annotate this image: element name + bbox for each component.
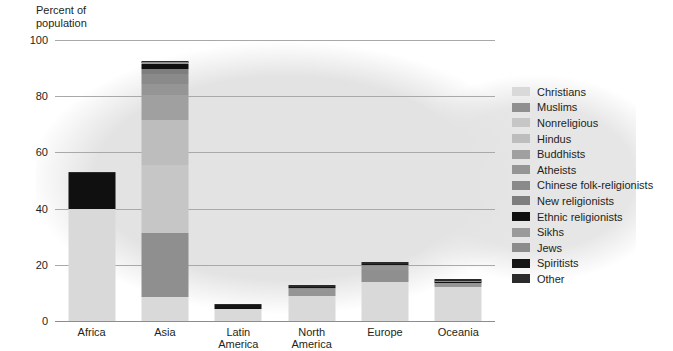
- y-axis-tick-label: 60: [36, 146, 48, 158]
- bar-column: Latin America: [202, 40, 275, 321]
- legend-swatch: [512, 259, 530, 268]
- legend-swatch: [512, 243, 530, 252]
- gridline: 0: [55, 321, 495, 322]
- legend-item[interactable]: Ethnic religionists: [512, 209, 672, 225]
- legend-swatch: [512, 118, 530, 127]
- bar-group: AfricaAsiaLatin AmericaNorth AmericaEuro…: [55, 40, 495, 321]
- x-axis-tick-label: Africa: [78, 326, 106, 338]
- y-axis-tick-label: 40: [36, 203, 48, 215]
- legend-item[interactable]: New religionists: [512, 193, 672, 209]
- legend-item[interactable]: Nonreligious: [512, 115, 672, 131]
- legend-item[interactable]: Sikhs: [512, 224, 672, 240]
- legend-swatch: [512, 196, 530, 205]
- bar-column: Oceania: [422, 40, 495, 321]
- bar-segment[interactable]: [141, 297, 188, 321]
- legend-label: Buddhists: [537, 148, 585, 160]
- y-axis-tick-label: 0: [42, 315, 48, 327]
- legend-item[interactable]: Atheists: [512, 162, 672, 178]
- bar-segment[interactable]: [141, 84, 188, 95]
- bar-segment[interactable]: [361, 282, 408, 321]
- legend: ChristiansMuslimsNonreligiousHindusBuddh…: [512, 84, 672, 287]
- legend-swatch: [512, 274, 530, 283]
- plot-area: 100806040200 AfricaAsiaLatin AmericaNort…: [55, 40, 495, 321]
- legend-label: Jews: [537, 242, 562, 254]
- legend-swatch: [512, 87, 530, 96]
- stacked-bar[interactable]: [141, 61, 188, 321]
- legend-label: Muslims: [537, 101, 577, 113]
- legend-label: Atheists: [537, 164, 576, 176]
- legend-swatch: [512, 181, 530, 190]
- legend-swatch: [512, 165, 530, 174]
- legend-item[interactable]: Hindus: [512, 131, 672, 147]
- legend-swatch: [512, 212, 530, 221]
- stacked-bar[interactable]: [435, 279, 482, 321]
- bar-segment[interactable]: [141, 95, 188, 120]
- y-axis-tick-label: 20: [36, 259, 48, 271]
- bar-segment[interactable]: [141, 74, 188, 84]
- y-axis-tick-label: 100: [30, 34, 48, 46]
- stacked-bar[interactable]: [68, 172, 115, 321]
- y-axis-tick-label: 80: [36, 90, 48, 102]
- legend-item[interactable]: Jews: [512, 240, 672, 256]
- legend-label: Christians: [537, 86, 586, 98]
- stacked-bar[interactable]: [215, 304, 262, 321]
- bar-segment[interactable]: [141, 165, 188, 232]
- x-axis-tick-label: Europe: [367, 326, 402, 338]
- legend-item[interactable]: Other: [512, 271, 672, 287]
- bar-segment[interactable]: [435, 287, 482, 321]
- bar-column: Asia: [128, 40, 201, 321]
- legend-label: Spiritists: [537, 257, 579, 269]
- bar-column: Europe: [348, 40, 421, 321]
- legend-item[interactable]: Spiritists: [512, 256, 672, 272]
- legend-item[interactable]: Muslims: [512, 100, 672, 116]
- chart-page: Percent of population 100806040200 Afric…: [0, 0, 673, 351]
- legend-item[interactable]: Buddhists: [512, 146, 672, 162]
- bar-segment[interactable]: [68, 173, 115, 209]
- bar-segment[interactable]: [141, 233, 188, 298]
- bar-column: North America: [275, 40, 348, 321]
- y-axis-title: Percent of population: [36, 4, 87, 30]
- legend-item[interactable]: Chinese folk-religionists: [512, 178, 672, 194]
- x-axis-tick-label: Oceania: [438, 326, 479, 338]
- bar-segment[interactable]: [288, 289, 335, 296]
- bar-segment[interactable]: [288, 296, 335, 321]
- legend-label: Other: [537, 273, 565, 285]
- legend-label: Ethnic religionists: [537, 211, 623, 223]
- legend-label: Nonreligious: [537, 117, 598, 129]
- legend-item[interactable]: Christians: [512, 84, 672, 100]
- legend-label: Sikhs: [537, 226, 564, 238]
- bar-segment[interactable]: [68, 209, 115, 321]
- legend-swatch: [512, 103, 530, 112]
- stacked-bar[interactable]: [361, 262, 408, 321]
- bar-segment[interactable]: [141, 120, 188, 165]
- legend-swatch: [512, 134, 530, 143]
- stacked-bar[interactable]: [288, 284, 335, 321]
- legend-label: Hindus: [537, 133, 571, 145]
- bar-segment[interactable]: [361, 270, 408, 281]
- x-axis-tick-label: Latin America: [218, 326, 258, 350]
- legend-swatch: [512, 228, 530, 237]
- x-axis-tick-label: North America: [291, 326, 331, 350]
- x-axis-tick-label: Asia: [154, 326, 175, 338]
- bar-segment[interactable]: [215, 309, 262, 321]
- legend-swatch: [512, 150, 530, 159]
- legend-label: New religionists: [537, 195, 614, 207]
- legend-label: Chinese folk-religionists: [537, 179, 653, 191]
- bar-column: Africa: [55, 40, 128, 321]
